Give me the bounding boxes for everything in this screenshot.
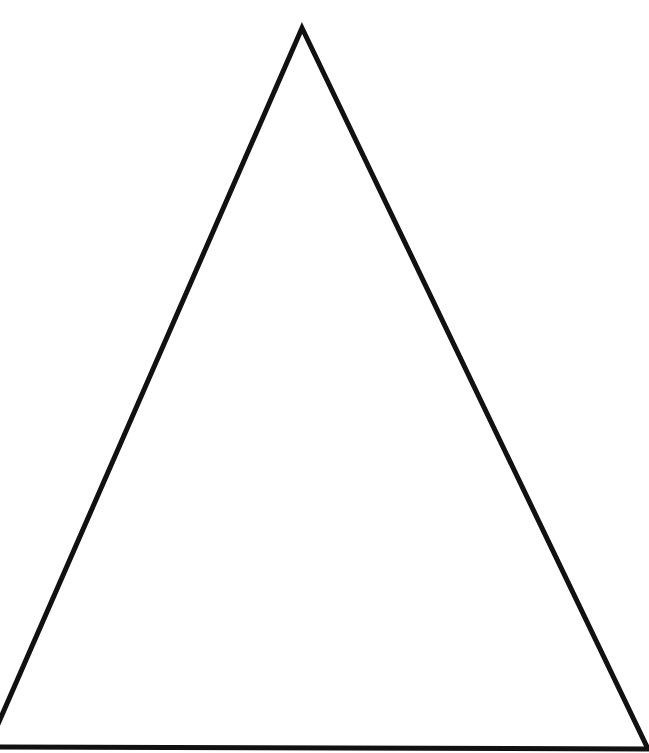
diagram-canvas (0, 0, 649, 753)
triangle-outline (0, 28, 648, 749)
triangle-diagram (0, 0, 649, 753)
